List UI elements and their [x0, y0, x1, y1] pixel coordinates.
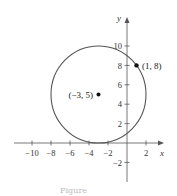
circle-point [134, 63, 138, 67]
y-tick-label: 8 [118, 61, 122, 71]
y-tick-label: 4 [118, 99, 123, 109]
chart-canvas: −10 −8 −6 −4 −2 2 x −2 2 4 6 8 10 y (−3,… [0, 0, 177, 196]
y-tick-labels: −2 2 4 6 8 10 [113, 41, 123, 167]
y-tick-label: −2 [113, 158, 122, 168]
center-point-label: (−3, 5) [68, 90, 93, 100]
x-tick-label: −6 [65, 148, 74, 158]
y-axis-label: y [116, 13, 121, 23]
center-point [97, 93, 101, 97]
x-tick-label: −10 [25, 148, 38, 158]
y-tick-label: 6 [118, 80, 122, 90]
x-tick-labels: −10 −8 −6 −4 −2 2 [25, 148, 148, 158]
x-tick-label: −8 [46, 148, 55, 158]
x-tick-label: −2 [103, 148, 112, 158]
x-axis-label: x [159, 148, 164, 158]
x-tick-label: −4 [84, 148, 94, 158]
figure-caption: Figure [60, 186, 87, 195]
y-tick-label: 2 [118, 119, 122, 129]
x-tick-label: 2 [144, 148, 148, 158]
y-axis-arrow-icon [125, 17, 130, 23]
x-axis-arrow-icon [158, 141, 164, 146]
circle-point-label: (1, 8) [142, 61, 162, 71]
